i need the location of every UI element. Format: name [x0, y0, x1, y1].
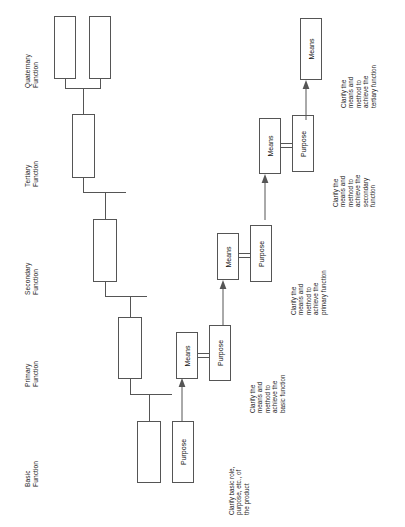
- pair-tertiary-annotation: Clarify the means and method to achieve …: [332, 175, 377, 207]
- tree-node-secondary: [93, 219, 117, 282]
- function-hierarchy-diagram: Quaternary Function Tertiary Function Se…: [0, 0, 405, 527]
- pair-primary-purpose-label: Purpose: [217, 340, 224, 366]
- connector-tertiary-stub: [83, 178, 84, 192]
- connector-secondary-rail: [105, 296, 147, 297]
- connector-tertiary-to-secondary: [105, 192, 106, 219]
- pair-basic-arrow: [176, 378, 188, 422]
- connector-quaternary-1-stub: [65, 79, 66, 88]
- level-label-quaternary: Quaternary Function: [24, 54, 40, 88]
- pair-secondary-purpose-label: Purpose: [258, 240, 265, 266]
- tree-node-quaternary-1: [54, 16, 76, 79]
- pair-secondary-means-label: Means: [225, 246, 232, 267]
- tree-node-primary: [118, 317, 142, 379]
- pair-basic-purpose-box: Purpose: [172, 421, 194, 483]
- pair-primary-means-label: Means: [184, 345, 191, 366]
- pair-quaternary-means-label: Means: [308, 38, 315, 59]
- pair-basic-purpose-label: Purpose: [180, 439, 187, 465]
- pair-primary-means-box: Means: [176, 332, 198, 379]
- pair-tertiary-means-box: Means: [259, 118, 281, 174]
- connector-primary-to-basic: [149, 394, 150, 421]
- level-label-basic: Basic Function: [24, 461, 40, 487]
- pair-primary-purpose-box: Purpose: [209, 325, 231, 381]
- pair-secondary-purpose-box: Purpose: [250, 225, 272, 282]
- pair-quaternary-annotation: Clarify the means and method to achieve …: [340, 65, 377, 108]
- pair-primary-equals-bottom: [198, 357, 209, 358]
- pair-tertiary-arrow: [259, 174, 271, 220]
- pair-secondary-annotation: Clarify the means and method to achieve …: [290, 270, 327, 315]
- level-label-secondary: Secondary Function: [24, 263, 40, 295]
- pair-tertiary-means-label: Means: [267, 135, 274, 156]
- connector-quaternary-to-tertiary: [83, 88, 84, 114]
- tree-node-quaternary-2: [89, 16, 111, 79]
- pair-tertiary-purpose-box: Purpose: [292, 115, 314, 172]
- tree-node-basic: [137, 421, 161, 483]
- pair-tertiary-equals-top: [281, 143, 292, 144]
- pair-basic-annotation: Clarify basic role, purpose, etc., of th…: [228, 467, 250, 515]
- connector-quaternary-2-stub: [100, 79, 101, 88]
- level-label-primary: Primary Function: [24, 361, 40, 387]
- connector-secondary-to-primary: [130, 296, 131, 317]
- connector-primary-rail: [130, 394, 172, 395]
- pair-secondary-equals-top: [239, 253, 250, 254]
- pair-secondary-arrow: [217, 280, 229, 326]
- pair-primary-equals-top: [198, 353, 209, 354]
- pair-primary-annotation: Clarify the means and method to achieve …: [249, 374, 286, 413]
- pair-tertiary-equals-bottom: [281, 147, 292, 148]
- pair-tertiary-purpose-label: Purpose: [300, 130, 307, 156]
- level-label-tertiary: Tertiary Function: [24, 161, 40, 187]
- pair-secondary-means-box: Means: [217, 233, 239, 280]
- pair-secondary-equals-bottom: [239, 257, 250, 258]
- connector-primary-stub: [130, 379, 131, 394]
- pair-quaternary-means-box: Means: [300, 18, 322, 80]
- pair-quaternary-arrow: [300, 80, 312, 120]
- connector-secondary-stub: [105, 282, 106, 296]
- tree-node-tertiary: [72, 114, 95, 178]
